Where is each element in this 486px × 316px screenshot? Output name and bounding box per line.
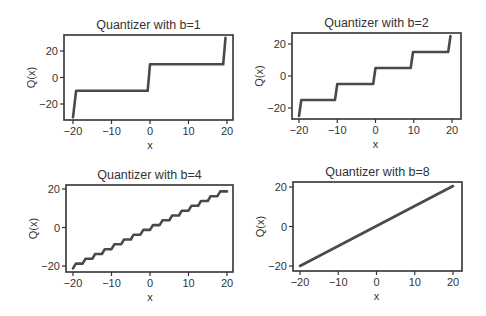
y-axis-label: Q(x) bbox=[25, 67, 37, 88]
x-tick-label: 20 bbox=[221, 125, 233, 137]
y-tick-label: 0 bbox=[54, 222, 60, 234]
y-tick-label: 0 bbox=[280, 70, 286, 82]
quantizer-figure: Quantizer with b=1 x Q(x) −20−1001020−20… bbox=[0, 0, 486, 316]
y-tick-label: 20 bbox=[46, 45, 58, 57]
y-tick-label: 20 bbox=[275, 181, 287, 193]
x-tick-label: 0 bbox=[373, 276, 379, 288]
figure-canvas: Quantizer with b=1 x Q(x) −20−1001020−20… bbox=[0, 0, 486, 316]
axes-frame bbox=[292, 33, 461, 119]
x-tick-label: 0 bbox=[147, 277, 153, 289]
subplot-b4: Quantizer with b=4 x Q(x) −20−1001020−20… bbox=[27, 168, 233, 303]
quantizer-curve bbox=[300, 186, 453, 266]
x-tick-label: −10 bbox=[102, 125, 121, 137]
y-tick-label: −20 bbox=[39, 98, 58, 110]
y-tick-label: 20 bbox=[48, 183, 60, 195]
x-tick-label: 20 bbox=[447, 276, 459, 288]
x-tick-label: −20 bbox=[291, 276, 310, 288]
x-tick-label: 0 bbox=[372, 124, 378, 136]
x-axis-label: x bbox=[147, 291, 153, 303]
x-tick-label: 0 bbox=[147, 125, 153, 137]
x-tick-label: −10 bbox=[329, 276, 348, 288]
x-tick-label: −20 bbox=[64, 125, 83, 137]
quantizer-curve bbox=[73, 38, 226, 118]
quantizer-curve bbox=[73, 191, 227, 268]
x-tick-label: 10 bbox=[409, 276, 421, 288]
quantizer-curve bbox=[299, 36, 451, 116]
subplot-title: Quantizer with b=4 bbox=[97, 168, 202, 182]
x-tick-label: 20 bbox=[446, 124, 458, 136]
x-tick-label: −10 bbox=[328, 124, 347, 136]
y-tick-label: −20 bbox=[268, 260, 287, 272]
x-tick-label: 10 bbox=[182, 277, 194, 289]
y-tick-label: −20 bbox=[41, 260, 60, 272]
y-tick-label: −20 bbox=[267, 102, 286, 114]
x-tick-label: 20 bbox=[221, 277, 233, 289]
x-axis-label: x bbox=[373, 138, 379, 150]
y-tick-label: 0 bbox=[281, 221, 287, 233]
x-axis-label: x bbox=[147, 139, 153, 151]
y-axis-label: Q(x) bbox=[253, 65, 265, 86]
subplot-b8: Quantizer with b=8 x Q(x) −20−1001020−20… bbox=[254, 165, 462, 302]
subplot-b1: Quantizer with b=1 x Q(x) −20−1001020−20… bbox=[25, 18, 233, 151]
y-axis-label: Q(x) bbox=[27, 218, 39, 239]
subplot-b2: Quantizer with b=2 x Q(x) −20−1001020−20… bbox=[253, 16, 461, 150]
subplot-title: Quantizer with b=1 bbox=[96, 18, 201, 32]
x-tick-label: 10 bbox=[182, 125, 194, 137]
y-axis-label: Q(x) bbox=[254, 216, 266, 237]
y-tick-label: 0 bbox=[52, 72, 58, 84]
x-tick-label: −20 bbox=[290, 124, 309, 136]
x-tick-label: −10 bbox=[102, 277, 121, 289]
x-tick-label: −20 bbox=[64, 277, 83, 289]
subplot-title: Quantizer with b=2 bbox=[324, 16, 429, 30]
subplot-title: Quantizer with b=8 bbox=[325, 165, 430, 179]
x-tick-label: 10 bbox=[408, 124, 420, 136]
y-tick-label: 20 bbox=[274, 38, 286, 50]
x-axis-label: x bbox=[374, 290, 380, 302]
